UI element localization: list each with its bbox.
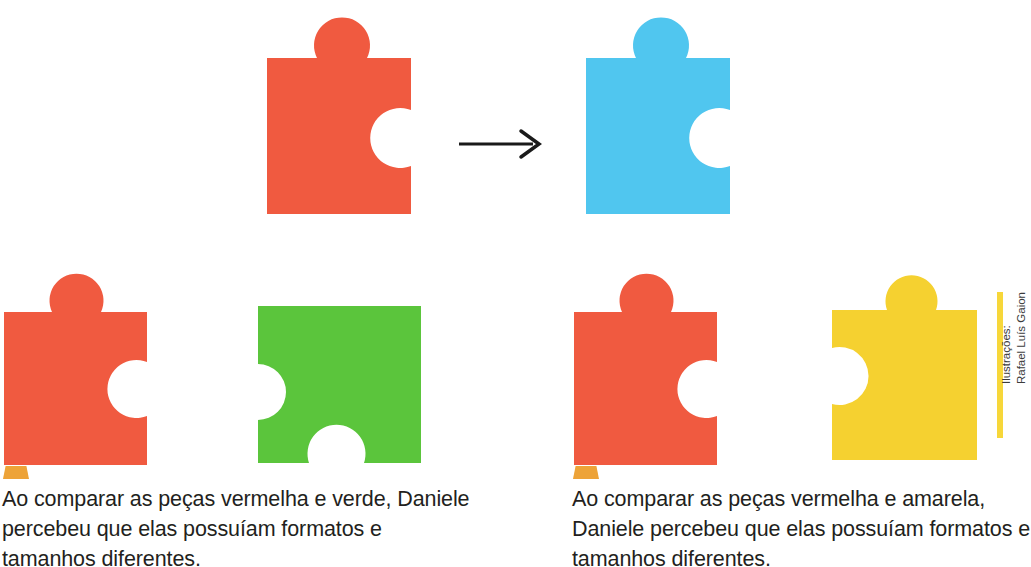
- credit-line-1: Ilustrações:: [999, 292, 1014, 384]
- puzzle-piece-red-left-shape: [0, 262, 158, 467]
- credit-line-2: Rafael Luís Gaion: [1014, 292, 1029, 384]
- illustration-credit: Ilustrações: Rafael Luís Gaion: [999, 292, 1029, 384]
- caption-left: Ao comparar as peças vermelha e verde, D…: [2, 484, 472, 567]
- puzzle-piece-green-shape: [252, 300, 427, 467]
- puzzle-piece-red-right-shape: [568, 262, 728, 467]
- puzzle-piece-blue-top: [578, 6, 738, 216]
- right-arrow-icon: [455, 120, 555, 168]
- illustration-canvas: Ao comparar as peças vermelha e verde, D…: [0, 0, 1031, 567]
- trapezoid-marker-icon: [573, 466, 599, 479]
- puzzle-piece-red-right: [568, 262, 728, 467]
- puzzle-piece-green: [252, 300, 427, 467]
- caption-marker-right: [573, 466, 599, 479]
- puzzle-piece-yellow-shape: [785, 272, 985, 464]
- puzzle-piece-yellow: [785, 272, 985, 464]
- puzzle-piece-red-top: [259, 6, 419, 216]
- trapezoid-marker-icon: [3, 466, 29, 479]
- puzzle-piece-red-left: [0, 262, 158, 467]
- puzzle-piece-red-top-shape: [259, 6, 419, 216]
- caption-marker-left: [3, 466, 29, 479]
- puzzle-piece-blue-top-shape: [578, 6, 738, 216]
- caption-right: Ao comparar as peças vermelha e amarela,…: [572, 484, 1031, 567]
